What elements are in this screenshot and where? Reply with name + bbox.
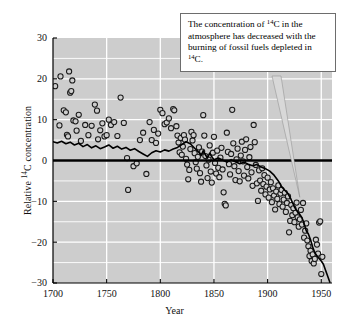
data-point-marker bbox=[137, 137, 142, 142]
data-point-marker bbox=[76, 112, 81, 117]
data-point-marker bbox=[244, 137, 249, 142]
data-point-marker bbox=[237, 179, 242, 184]
data-point-marker bbox=[153, 140, 158, 145]
data-point-marker bbox=[156, 131, 161, 136]
data-point-marker bbox=[320, 254, 325, 259]
data-point-marker bbox=[275, 196, 280, 201]
data-point-marker bbox=[300, 200, 305, 205]
data-point-marker bbox=[166, 116, 171, 121]
data-point-marker bbox=[112, 120, 117, 125]
data-point-marker bbox=[202, 133, 207, 138]
data-point-marker bbox=[319, 271, 324, 276]
data-point-marker bbox=[74, 128, 79, 133]
y-axis-title-superscript: 14 bbox=[21, 171, 29, 178]
data-point-marker bbox=[174, 124, 179, 129]
data-point-marker bbox=[118, 95, 123, 100]
data-point-marker bbox=[252, 140, 257, 145]
data-point-marker bbox=[106, 117, 111, 122]
data-point-marker bbox=[92, 102, 97, 107]
data-point-marker bbox=[312, 256, 317, 261]
x-axis-tick-label: 1800 bbox=[150, 288, 170, 299]
data-point-marker bbox=[83, 122, 88, 127]
data-point-marker bbox=[141, 130, 146, 135]
data-point-marker bbox=[255, 198, 260, 203]
data-point-marker bbox=[268, 180, 273, 185]
data-point-marker bbox=[229, 151, 234, 156]
data-point-marker bbox=[70, 78, 75, 83]
data-point-marker bbox=[314, 242, 319, 247]
data-point-marker bbox=[305, 238, 310, 243]
data-point-marker bbox=[65, 134, 70, 139]
data-point-marker bbox=[201, 113, 206, 118]
data-point-marker bbox=[147, 120, 152, 125]
data-point-marker bbox=[232, 164, 237, 169]
data-point-marker bbox=[230, 107, 235, 112]
data-point-marker bbox=[248, 144, 253, 149]
data-point-marker bbox=[63, 110, 68, 115]
data-point-marker bbox=[195, 154, 200, 159]
data-point-marker bbox=[104, 133, 109, 138]
annotation-text: The concentration of 14C in the atmosphe… bbox=[188, 19, 316, 64]
data-point-marker bbox=[98, 128, 103, 133]
data-point-marker bbox=[126, 187, 131, 192]
x-axis-title: Year bbox=[0, 305, 349, 316]
data-point-marker bbox=[121, 120, 126, 125]
data-point-marker bbox=[294, 200, 299, 205]
data-point-marker bbox=[242, 147, 247, 152]
data-point-marker bbox=[227, 172, 232, 177]
y-axis-tick-label: 30 bbox=[37, 32, 47, 43]
y-axis-tick-label: −20 bbox=[31, 237, 47, 248]
data-point-marker bbox=[73, 119, 78, 124]
data-point-marker bbox=[89, 123, 94, 128]
data-point-marker bbox=[144, 171, 149, 176]
data-point-marker bbox=[238, 153, 243, 158]
data-point-marker bbox=[273, 207, 278, 212]
data-point-marker bbox=[179, 152, 184, 157]
data-point-marker bbox=[220, 167, 225, 172]
x-axis-tick-label: 1950 bbox=[311, 288, 331, 299]
data-point-marker bbox=[94, 108, 99, 113]
y-axis-tick-label: 20 bbox=[37, 73, 47, 84]
y-axis-tick-label: −30 bbox=[31, 277, 47, 288]
x-axis-tick-label: 1900 bbox=[258, 288, 278, 299]
annotation-callout: The concentration of 14C in the atmosphe… bbox=[180, 13, 336, 72]
y-axis-tick-label: 0 bbox=[42, 155, 47, 166]
data-point-marker bbox=[217, 175, 222, 180]
y-axis-tick-label: −10 bbox=[31, 196, 47, 207]
data-point-marker bbox=[188, 146, 193, 151]
data-point-marker bbox=[286, 230, 291, 235]
data-point-marker bbox=[207, 143, 212, 148]
x-axis-tick-label: 1750 bbox=[97, 288, 117, 299]
data-point-marker bbox=[313, 237, 318, 242]
annotation-line4-a: depleted in bbox=[271, 42, 312, 52]
data-point-marker bbox=[185, 162, 190, 167]
annotation-line1-b: C in the bbox=[273, 19, 302, 29]
x-axis-tick-label: 1700 bbox=[43, 288, 63, 299]
data-point-marker bbox=[223, 203, 228, 208]
data-point-marker bbox=[269, 200, 274, 205]
data-point-marker bbox=[100, 121, 105, 126]
y-axis-title: Relative 14C concentration bbox=[22, 81, 33, 241]
data-point-marker bbox=[86, 133, 91, 138]
annotation-line2: atmosphere has decreased with bbox=[188, 31, 302, 41]
data-point-marker bbox=[231, 141, 236, 146]
data-point-marker bbox=[172, 108, 177, 113]
annotation-line4-b: C. bbox=[195, 54, 203, 64]
data-point-marker bbox=[66, 69, 71, 74]
data-point-marker bbox=[247, 155, 252, 160]
x-axis-tick-label: 1850 bbox=[204, 288, 224, 299]
data-point-marker bbox=[318, 219, 323, 224]
data-point-marker bbox=[204, 163, 209, 168]
annotation-line1-a: The concentration of bbox=[188, 19, 267, 29]
data-point-marker bbox=[224, 130, 229, 135]
data-point-marker bbox=[190, 138, 195, 143]
data-point-marker bbox=[249, 170, 254, 175]
data-point-marker bbox=[205, 175, 210, 180]
data-point-marker bbox=[292, 220, 297, 225]
data-point-marker bbox=[198, 179, 203, 184]
data-point-marker bbox=[208, 169, 213, 174]
data-point-marker bbox=[115, 133, 120, 138]
data-point-marker bbox=[160, 111, 165, 116]
data-point-marker bbox=[246, 176, 251, 181]
y-axis-tick-label: 10 bbox=[37, 114, 47, 125]
